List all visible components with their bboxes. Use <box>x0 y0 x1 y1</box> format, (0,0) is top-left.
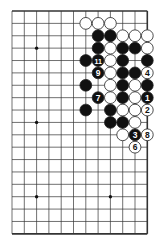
white-stone <box>117 30 129 42</box>
black-stone <box>92 30 104 42</box>
black-stone <box>129 42 141 54</box>
black-stone <box>92 42 104 54</box>
black-stone-3: 3 <box>129 129 141 141</box>
black-stone <box>117 67 129 79</box>
black-stone <box>80 104 92 116</box>
black-stone <box>105 117 117 129</box>
white-stone <box>105 67 117 79</box>
white-stone <box>105 42 117 54</box>
white-stone <box>80 17 92 29</box>
move-number: 7 <box>96 93 101 103</box>
white-stone <box>105 92 117 104</box>
black-stone <box>129 67 141 79</box>
move-number: 6 <box>133 142 138 152</box>
black-stone <box>80 55 92 67</box>
move-number: 8 <box>145 130 150 140</box>
black-stone <box>117 55 129 67</box>
white-stone <box>129 79 141 91</box>
move-number: 9 <box>96 68 101 78</box>
move-number: 2 <box>145 105 150 115</box>
white-stone-4: 4 <box>141 67 153 79</box>
star-point <box>35 121 38 124</box>
white-stone <box>105 79 117 91</box>
white-stone <box>105 17 117 29</box>
black-stone <box>117 117 129 129</box>
white-stone <box>129 117 141 129</box>
move-number: 1 <box>145 93 150 103</box>
move-number: 3 <box>133 130 138 140</box>
black-stone <box>141 79 153 91</box>
black-stone-11: 11 <box>92 55 104 67</box>
black-stone-9: 9 <box>92 67 104 79</box>
white-stone-8: 8 <box>141 129 153 141</box>
white-stone <box>129 104 141 116</box>
white-stone <box>105 55 117 67</box>
black-stone <box>117 42 129 54</box>
black-stone-7: 7 <box>92 92 104 104</box>
go-board: 1194712386 <box>0 0 158 241</box>
white-stone <box>141 42 153 54</box>
white-stone <box>117 129 129 141</box>
star-point <box>109 195 112 198</box>
black-stone <box>117 92 129 104</box>
black-stone <box>80 79 92 91</box>
black-stone <box>105 30 117 42</box>
black-stone <box>141 55 153 67</box>
stones-layer: 1194712386 <box>80 17 153 153</box>
black-stone <box>117 79 129 91</box>
white-stone-2: 2 <box>141 104 153 116</box>
white-stone <box>141 30 153 42</box>
white-stone <box>129 92 141 104</box>
move-number: 11 <box>94 58 102 65</box>
white-stone <box>117 104 129 116</box>
white-stone <box>92 17 104 29</box>
move-number: 4 <box>145 68 150 78</box>
white-stone-6: 6 <box>129 141 141 153</box>
white-stone <box>129 30 141 42</box>
black-stone <box>105 104 117 116</box>
star-point <box>35 195 38 198</box>
star-point <box>35 46 38 49</box>
black-stone-1: 1 <box>141 92 153 104</box>
